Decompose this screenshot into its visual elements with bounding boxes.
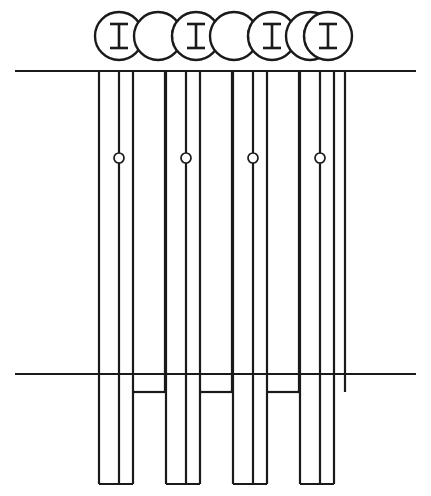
drawing-canvas	[0, 0, 431, 496]
canvas-background	[0, 0, 431, 496]
plan-view	[95, 12, 352, 60]
bolt-hole-marker	[181, 153, 191, 163]
bolt-hole-marker	[114, 153, 124, 163]
pile-section-pile-7	[304, 12, 352, 60]
engineering-drawing	[0, 0, 431, 496]
bolt-hole-marker	[315, 153, 325, 163]
bolt-hole-marker	[248, 153, 258, 163]
